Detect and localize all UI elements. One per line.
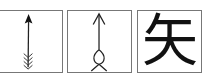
- modern-character: 矢: [138, 9, 201, 72]
- panel-bronze-arrow: [67, 10, 132, 73]
- panel-oracle-bone-arrow: [0, 10, 63, 73]
- panel-modern-character: 矢: [137, 10, 202, 73]
- arrow-looped-icon: [68, 11, 131, 72]
- arrow-pictograph-icon: [0, 11, 62, 72]
